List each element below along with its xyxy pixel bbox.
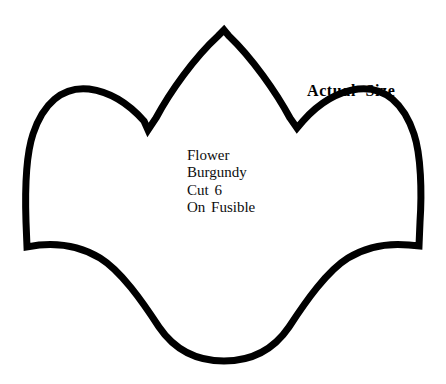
instruction-line-shape: Flower	[187, 147, 255, 164]
instruction-line-quantity: Cut 6	[187, 182, 255, 199]
actual-size-note: Actual Size	[307, 82, 395, 100]
instruction-line-backing: On Fusible	[187, 199, 255, 216]
instruction-line-color: Burgundy	[187, 164, 255, 181]
cutting-instructions: Flower Burgundy Cut 6 On Fusible	[187, 147, 255, 217]
pattern-sheet: Actual Size Flower Burgundy Cut 6 On Fus…	[0, 0, 446, 384]
label-layer: Actual Size Flower Burgundy Cut 6 On Fus…	[0, 0, 446, 384]
